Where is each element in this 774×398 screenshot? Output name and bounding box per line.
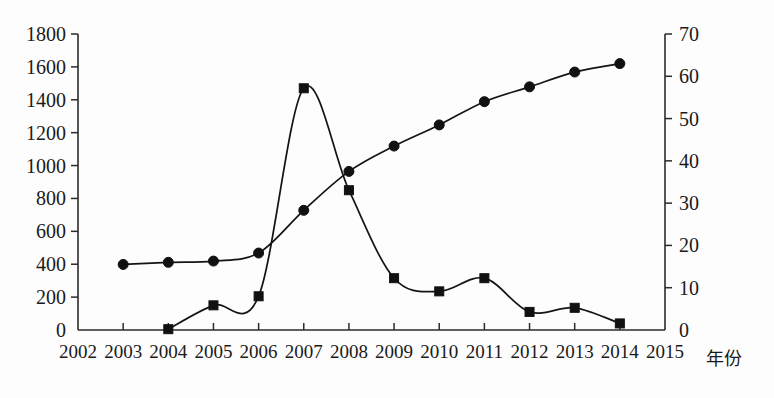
- series-layer: [118, 59, 625, 334]
- data-point-circle: [344, 166, 354, 176]
- right-axis-tick-label: 70: [679, 23, 699, 45]
- left-axis-tick-label: 400: [36, 253, 66, 275]
- data-point-circle: [525, 82, 535, 92]
- data-point-square: [254, 292, 263, 301]
- data-point-circle: [254, 248, 264, 258]
- x-axis-tick-label: 2011: [466, 341, 503, 362]
- left-axis-tick-label: 1200: [26, 122, 66, 144]
- x-axis-tick-label: 2013: [556, 341, 594, 362]
- data-point-square: [164, 325, 173, 334]
- x-axis-tick-label: 2015: [646, 341, 684, 362]
- data-point-square: [390, 274, 399, 283]
- x-axis-tick-label: 2010: [420, 341, 458, 362]
- data-point-square: [435, 287, 444, 296]
- right-axis-tick-label: 20: [679, 234, 699, 256]
- data-point-square: [480, 274, 489, 283]
- right-axis-tick-label: 50: [679, 108, 699, 130]
- left-axis-tick-label: 1400: [26, 89, 66, 111]
- x-axis-tick-label: 2006: [240, 341, 278, 362]
- right-axis-tick-label: 60: [679, 65, 699, 87]
- x-axis-tick-label: 2003: [104, 341, 142, 362]
- chart-canvas: 020040060080010001200140016001800 010203…: [0, 0, 774, 398]
- data-point-square: [570, 303, 579, 312]
- data-point-square: [615, 319, 624, 328]
- data-point-square: [299, 84, 308, 93]
- data-point-square: [209, 301, 218, 310]
- data-point-circle: [615, 59, 625, 69]
- right-axis-tick-label: 10: [679, 277, 699, 299]
- left-axis-tick-label: 800: [36, 187, 66, 209]
- data-point-circle: [389, 141, 399, 151]
- data-point-circle: [570, 67, 580, 77]
- left-axis-tick-label: 1800: [26, 23, 66, 45]
- chart-figure: 020040060080010001200140016001800 010203…: [0, 0, 774, 398]
- data-point-square: [525, 307, 534, 316]
- series-line-square: [168, 86, 620, 329]
- x-axis: 2002200320042005200620072008200920102011…: [59, 323, 684, 362]
- data-point-square: [344, 186, 353, 195]
- x-axis-tick-label: 2009: [375, 341, 413, 362]
- x-axis-tick-label: 2012: [511, 341, 549, 362]
- series-square: [164, 84, 625, 334]
- left-axis-tick-label: 1000: [26, 155, 66, 177]
- x-axis-tick-label: 2014: [601, 341, 640, 362]
- x-axis-tick-label: 2005: [194, 341, 232, 362]
- data-point-circle: [208, 256, 218, 266]
- x-axis-tick-label: 2002: [59, 341, 97, 362]
- series-line-circle: [123, 64, 620, 265]
- x-axis-caption: 年份: [706, 348, 742, 369]
- data-point-circle: [163, 257, 173, 267]
- x-axis-tick-label: 2007: [285, 341, 323, 362]
- x-axis-tick-label: 2008: [330, 341, 368, 362]
- left-axis-tick-label: 200: [36, 286, 66, 308]
- right-axis-tick-label: 30: [679, 192, 699, 214]
- left-axis-tick-label: 600: [36, 220, 66, 242]
- left-y-axis: 020040060080010001200140016001800: [26, 23, 78, 341]
- data-point-circle: [299, 205, 309, 215]
- right-y-axis: 010203040506070: [665, 23, 699, 341]
- x-axis-tick-label: 2004: [149, 341, 188, 362]
- left-axis-tick-label: 0: [56, 319, 66, 341]
- data-point-circle: [479, 97, 489, 107]
- data-point-circle: [434, 120, 444, 130]
- data-point-circle: [118, 259, 128, 269]
- right-axis-tick-label: 0: [679, 319, 689, 341]
- left-axis-tick-label: 1600: [26, 56, 66, 78]
- right-axis-tick-label: 40: [679, 150, 699, 172]
